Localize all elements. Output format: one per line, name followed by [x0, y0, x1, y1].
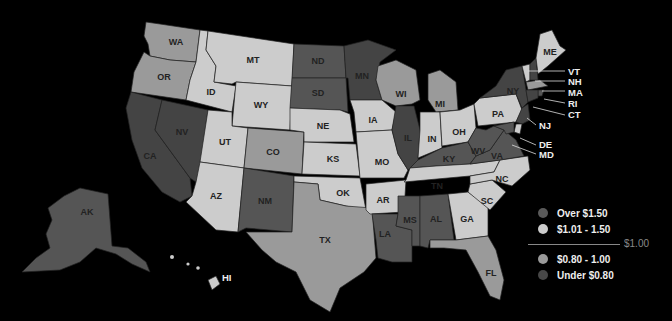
- legend-label: $1.01 - 1.50: [557, 224, 610, 235]
- leader-RI: [544, 99, 565, 103]
- legend-item-under-080: Under $0.80: [538, 268, 614, 282]
- legend-item-over-150: Over $1.50: [538, 206, 608, 220]
- label-AR: AR: [377, 195, 390, 205]
- hi-island: [186, 262, 189, 265]
- legend-divider-label: $1.00: [624, 238, 649, 249]
- hi-island: [170, 255, 174, 259]
- state-MA[interactable]: [526, 80, 548, 90]
- label-OR: OR: [157, 72, 171, 82]
- label-PA: PA: [492, 109, 504, 119]
- label-SD: SD: [312, 88, 325, 98]
- legend-label: $0.80 - 1.00: [557, 254, 610, 265]
- label-CO: CO: [266, 147, 280, 157]
- label-TX: TX: [319, 235, 331, 245]
- legend-swatch-icon: [538, 224, 548, 234]
- label-NJ: NJ: [539, 120, 551, 131]
- leader-NJ: [527, 118, 536, 125]
- label-KS: KS: [327, 154, 340, 164]
- leader-DE: [520, 138, 536, 145]
- legend-divider: [528, 244, 620, 245]
- label-OH: OH: [452, 127, 466, 137]
- label-CA: CA: [144, 151, 157, 161]
- state-HI[interactable]: [208, 276, 220, 290]
- label-LA: LA: [379, 229, 391, 239]
- leader-CT: [533, 107, 565, 115]
- label-CT: CT: [568, 109, 581, 120]
- label-GA: GA: [460, 214, 474, 224]
- label-WV: WV: [471, 146, 486, 156]
- label-AK: AK: [81, 207, 94, 217]
- legend-item-101-150: $1.01 - 1.50: [538, 222, 610, 236]
- label-MO: MO: [375, 157, 390, 167]
- label-NC: NC: [496, 174, 509, 184]
- label-SC: SC: [481, 196, 494, 206]
- legend-label: Under $0.80: [557, 270, 614, 281]
- label-MT: MT: [247, 55, 260, 65]
- label-KY: KY: [443, 154, 456, 164]
- label-NH: NH: [568, 76, 582, 87]
- label-ND: ND: [312, 56, 325, 66]
- label-RI: RI: [568, 98, 578, 109]
- legend-swatch-icon: [538, 270, 548, 280]
- label-MD: MD: [539, 149, 554, 160]
- label-WA: WA: [169, 37, 184, 47]
- label-TN: TN: [431, 181, 443, 191]
- label-WI: WI: [396, 89, 407, 99]
- label-IN: IN: [428, 134, 437, 144]
- label-MN: MN: [355, 71, 369, 81]
- label-UT: UT: [219, 137, 231, 147]
- label-IA: IA: [369, 115, 379, 125]
- hi-island: [196, 266, 200, 270]
- label-FL: FL: [486, 268, 497, 278]
- legend-swatch-icon: [538, 254, 548, 264]
- label-HI: HI: [222, 272, 232, 283]
- legend-swatch-icon: [538, 208, 548, 218]
- label-AL: AL: [430, 214, 442, 224]
- state-DE[interactable]: [514, 124, 522, 134]
- label-MI: MI: [435, 99, 445, 109]
- label-OK: OK: [336, 188, 350, 198]
- label-MS: MS: [403, 215, 417, 225]
- label-MA: MA: [568, 87, 583, 98]
- state-CT[interactable]: [526, 90, 538, 102]
- label-VA: VA: [491, 151, 503, 161]
- label-NY: NY: [507, 86, 520, 96]
- label-NE: NE: [317, 121, 330, 131]
- label-NV: NV: [176, 127, 189, 137]
- label-ID: ID: [207, 87, 217, 97]
- state-AK[interactable]: [22, 188, 150, 272]
- label-WY: WY: [254, 100, 269, 110]
- label-AZ: AZ: [210, 191, 222, 201]
- legend-item-080-100: $0.80 - 1.00: [538, 252, 610, 266]
- legend-label: Over $1.50: [557, 208, 608, 219]
- label-IL: IL: [404, 133, 413, 143]
- label-ME: ME: [543, 47, 557, 57]
- label-NM: NM: [258, 196, 272, 206]
